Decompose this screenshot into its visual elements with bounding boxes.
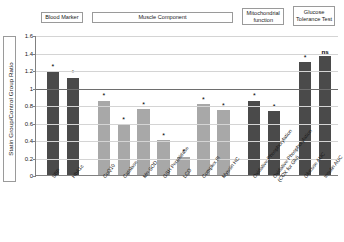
x-axis-tick-labels: SBPHbA1cCoQ10CatalaseMn-SODGSH Peroxidas… — [35, 176, 338, 242]
gridline — [36, 106, 338, 107]
gridline — [36, 141, 338, 142]
gridline — [36, 54, 338, 55]
group-header-label: Mitochondrial function — [245, 10, 281, 24]
y-axis-tick — [33, 159, 36, 160]
y-axis-tick-label: 0.4 — [25, 138, 33, 144]
y-axis-title: Statin Group/Control Group Ratio — [6, 62, 13, 155]
group-header-label: Blood Marker — [45, 14, 78, 21]
group-header-3: Mitochondrial function — [242, 8, 284, 25]
significance-asterisk: * — [162, 132, 165, 139]
gridline — [36, 124, 338, 125]
y-axis-tick-labels: 1.61.41.210.80.60.40.20 — [18, 36, 34, 182]
group-header-2: Muscle Component — [92, 12, 234, 23]
group-header-row: Blood MarkerMuscle ComponentMitochondria… — [0, 0, 342, 34]
reference-line — [36, 89, 338, 90]
y-axis-tick-label: 1.6 — [25, 33, 33, 39]
y-axis-tick — [33, 71, 36, 72]
group-header-4: Glucose Tolerance Test — [293, 6, 335, 26]
bar[interactable] — [98, 101, 110, 175]
gridline — [36, 36, 338, 37]
group-header-label: Glucose Tolerance Test — [296, 9, 332, 23]
y-axis-tick-label: 1.2 — [25, 68, 33, 74]
significance-asterisk: * — [304, 54, 307, 61]
group-header-label: Muscle Component — [138, 14, 186, 21]
significance-asterisk: * — [52, 63, 55, 70]
y-axis-tick — [33, 106, 36, 107]
y-axis-tick-label: 1.4 — [25, 51, 33, 57]
significance-asterisk: * — [102, 92, 105, 99]
y-axis-tick — [33, 141, 36, 142]
y-axis-tick-label: 0.8 — [25, 103, 33, 109]
y-axis-tick — [33, 54, 36, 55]
significance-asterisk: * — [253, 92, 256, 99]
significance-asterisk: * — [202, 96, 205, 103]
y-axis-tick-label: 0.2 — [25, 156, 33, 162]
y-axis-title-box: Statin Group/Control Group Ratio — [3, 36, 16, 182]
y-axis-tick — [33, 36, 36, 37]
y-axis-tick-label: 0.6 — [25, 121, 33, 127]
bar[interactable] — [67, 78, 79, 175]
y-axis-tick — [33, 124, 36, 125]
group-header-1: Blood Marker — [41, 12, 83, 23]
significance-asterisk: * — [122, 116, 125, 123]
gridline — [36, 71, 338, 72]
y-axis-tick — [33, 89, 36, 90]
